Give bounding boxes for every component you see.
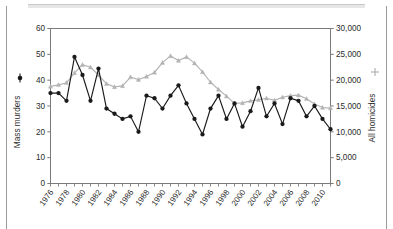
data-point-mass-murders <box>256 86 260 90</box>
data-point-mass-murders <box>48 91 52 95</box>
data-point-mass-murders <box>96 66 100 70</box>
data-point-mass-murders <box>304 114 308 118</box>
y-axis-left-title: Mass murders <box>12 96 22 149</box>
y-axis-right-tick-label: 0 <box>336 179 341 188</box>
figure-container: 0102030405060 05,00010,00015,00020,00025… <box>0 0 393 229</box>
data-point-mass-murders <box>328 127 332 131</box>
x-axis-tick-label: 1984 <box>102 188 120 208</box>
data-point-mass-murders <box>144 94 148 98</box>
x-axis-tick-label: 1982 <box>86 188 104 208</box>
y-axis-left-tick-label: 20 <box>36 128 46 137</box>
y-axis-left-tick-label: 40 <box>36 76 46 85</box>
y-axis-left-tick-label: 60 <box>36 24 46 33</box>
y-axis-left-ticks: 0102030405060 <box>36 24 51 188</box>
x-axis-ticks: 1976197819801982198419861988199019921994… <box>38 184 331 208</box>
data-point-mass-murders <box>280 122 284 126</box>
x-axis-tick-label: 1978 <box>54 188 72 208</box>
data-point-mass-murders <box>240 125 244 129</box>
x-axis-tick-label: 1988 <box>134 188 152 208</box>
data-point-mass-murders <box>120 117 124 121</box>
data-point-mass-murders <box>168 94 172 98</box>
data-point-mass-murders <box>224 117 228 121</box>
x-axis-tick-label: 2006 <box>278 188 296 208</box>
data-point-mass-murders <box>184 101 188 105</box>
data-point-mass-murders <box>112 112 116 116</box>
y-axis-right-title: All homicides <box>367 94 377 143</box>
y-axis-left-tick-label: 30 <box>36 102 46 111</box>
data-point-mass-murders <box>160 106 164 110</box>
data-point-mass-murders <box>152 96 156 100</box>
x-axis-tick-label: 1996 <box>198 188 216 208</box>
data-point-mass-murders <box>64 99 68 103</box>
data-point-mass-murders <box>248 109 252 113</box>
y-axis-left-tick-label: 10 <box>36 153 46 162</box>
data-point-all-homicides <box>128 75 132 79</box>
x-axis-tick-label: 1986 <box>118 188 136 208</box>
x-axis-tick-label: 1976 <box>38 188 56 208</box>
data-point-mass-murders <box>272 101 276 105</box>
x-axis-tick-label: 1998 <box>214 188 232 208</box>
y-axis-right-tick-label: 5,000 <box>336 153 357 162</box>
x-axis-tick-label: 2004 <box>262 188 280 208</box>
data-point-mass-murders <box>312 104 316 108</box>
x-axis-tick-label: 2008 <box>294 188 312 208</box>
data-point-mass-murders <box>176 83 180 87</box>
data-point-mass-murders <box>88 99 92 103</box>
data-point-mass-murders <box>136 130 140 134</box>
x-axis-tick-label: 1992 <box>166 188 184 208</box>
data-point-mass-murders <box>56 91 60 95</box>
data-point-all-homicides <box>184 55 188 59</box>
y-axis-left-tick-label: 0 <box>40 179 45 188</box>
x-axis-tick-label: 1990 <box>150 188 168 208</box>
data-point-mass-murders <box>128 114 132 118</box>
data-point-mass-murders <box>320 117 324 121</box>
y-axis-right-tick-label: 30,000 <box>336 24 361 33</box>
x-axis-tick-label: 2002 <box>246 188 264 208</box>
data-point-all-homicides <box>168 54 172 58</box>
data-point-mass-murders <box>296 99 300 103</box>
data-point-mass-murders <box>192 117 196 121</box>
data-point-all-homicides <box>80 62 84 66</box>
line-chart: 0102030405060 05,00010,00015,00020,00025… <box>0 0 393 229</box>
y-axis-right-tick-label: 20,000 <box>336 76 361 85</box>
data-point-mass-murders <box>104 106 108 110</box>
x-axis-tick-label: 1980 <box>70 188 88 208</box>
x-axis-tick-label: 2010 <box>310 188 328 208</box>
data-point-mass-murders <box>288 96 292 100</box>
y-axis-left-tick-label: 50 <box>36 50 46 59</box>
x-axis-tick-label: 1994 <box>182 188 200 208</box>
data-point-mass-murders <box>200 132 204 136</box>
y-axis-right-ticks: 05,00010,00015,00020,00025,00030,000 <box>331 24 362 188</box>
x-axis-tick-label: 2000 <box>230 188 248 208</box>
y-axis-right-tick-label: 15,000 <box>336 102 361 111</box>
y-axis-right-tick-label: 25,000 <box>336 50 361 59</box>
data-point-mass-murders <box>208 106 212 110</box>
data-point-mass-murders <box>264 114 268 118</box>
y-axis-right-tick-label: 10,000 <box>336 128 361 137</box>
data-point-mass-murders <box>216 94 220 98</box>
data-point-mass-murders <box>232 101 236 105</box>
data-point-mass-murders <box>72 55 76 59</box>
data-point-mass-murders <box>80 73 84 77</box>
